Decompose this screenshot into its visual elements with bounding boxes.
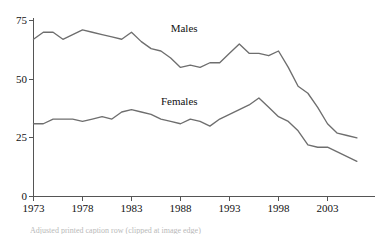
y-tick-label-75: 75 [16, 14, 28, 26]
series-label-males: Males [171, 22, 198, 34]
x-tick-label-2003: 2003 [317, 202, 340, 214]
x-tick-label-1998: 1998 [268, 202, 291, 214]
x-tick-label-1993: 1993 [219, 202, 242, 214]
chart-container: 75 50 25 0 1973 1978 1983 1988 1993 1998… [0, 0, 379, 234]
line-chart: 75 50 25 0 1973 1978 1983 1988 1993 1998… [0, 0, 379, 234]
x-axis: 1973 1978 1983 1988 1993 1998 2003 [23, 197, 376, 215]
x-tick-label-1983: 1983 [121, 202, 144, 214]
y-tick-label-50: 50 [16, 73, 28, 85]
series-line-females [34, 98, 357, 161]
x-tick-label-1973: 1973 [23, 202, 46, 214]
x-tick-label-1988: 1988 [170, 202, 193, 214]
series-label-females: Females [161, 95, 198, 107]
series-labels: Males Females [161, 22, 198, 107]
x-tick-label-1978: 1978 [72, 202, 95, 214]
y-axis: 75 50 25 0 [16, 14, 34, 202]
chart-footnote: Adjusted printed caption row (clipped at… [30, 226, 370, 234]
y-tick-label-0: 0 [22, 190, 28, 202]
y-tick-label-25: 25 [16, 131, 28, 143]
